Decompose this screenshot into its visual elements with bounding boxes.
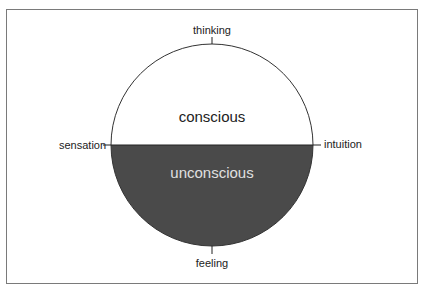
region-conscious: conscious (179, 108, 246, 125)
label-sensation: sensation (59, 139, 106, 151)
label-intuition: intuition (324, 138, 362, 150)
label-feeling: feeling (196, 257, 228, 269)
conscious-half (111, 44, 313, 145)
unconscious-half (111, 145, 313, 246)
label-thinking: thinking (193, 24, 231, 36)
region-unconscious: unconscious (170, 164, 253, 181)
